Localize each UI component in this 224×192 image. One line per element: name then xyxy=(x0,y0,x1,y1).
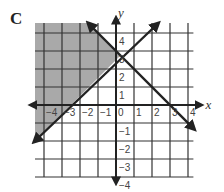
x-axis-label: x xyxy=(205,97,212,112)
x-tick-label: 2 xyxy=(154,107,160,118)
x-tick-label: −2 xyxy=(82,107,94,118)
y-tick-label: −2 xyxy=(119,144,131,155)
x-tick-label: 3 xyxy=(172,107,178,118)
y-tick-label: −4 xyxy=(119,180,131,191)
y-tick-label: 2 xyxy=(119,72,125,83)
y-tick-label: −3 xyxy=(119,162,131,173)
x-tick-label: 4 xyxy=(190,107,196,118)
x-tick-label: −4 xyxy=(46,107,58,118)
y-tick-label: −1 xyxy=(119,126,131,137)
y-axis-label: y xyxy=(116,5,124,20)
y-tick-label: 3 xyxy=(119,54,125,65)
x-tick-label: −1 xyxy=(100,107,112,118)
x-tick-label: 0 xyxy=(118,107,124,118)
y-tick-label: 4 xyxy=(119,36,125,47)
y-tick-label: 1 xyxy=(119,90,125,101)
x-tick-label: 1 xyxy=(136,107,142,118)
graph: −4−3−2−1012344321−1−2−3−4xy xyxy=(0,0,224,192)
x-tick-label: −3 xyxy=(64,107,76,118)
